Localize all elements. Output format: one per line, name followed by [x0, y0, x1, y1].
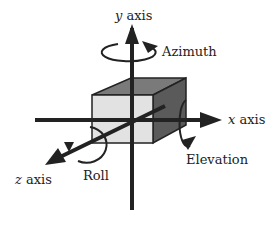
x-axis-label: x axis [228, 112, 265, 127]
elevation-label: Elevation [186, 152, 248, 167]
azimuth-label: Azimuth [162, 44, 217, 59]
z-axis-arrowhead [45, 148, 66, 165]
y-axis-arrowhead [125, 24, 139, 44]
x-axis-arrowhead [200, 112, 222, 128]
y-axis-label: y axis [115, 8, 152, 23]
elevation-arrowhead [182, 136, 196, 150]
roll-label: Roll [83, 168, 109, 183]
rotation-axes-diagram: y axis Azimuth x axis Elevation Roll z a… [0, 0, 272, 230]
z-axis-label: z axis [15, 172, 52, 187]
